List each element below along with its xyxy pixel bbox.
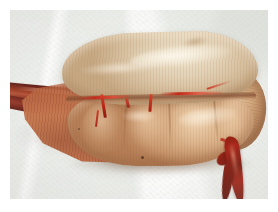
surface-speck-2 xyxy=(78,128,80,130)
specimen-photograph xyxy=(10,10,268,199)
photo-frame xyxy=(0,0,278,212)
specimen-body xyxy=(10,10,268,199)
lower-lobe-specular-highlight-2 xyxy=(122,110,156,122)
surface-speck-1 xyxy=(141,156,144,159)
